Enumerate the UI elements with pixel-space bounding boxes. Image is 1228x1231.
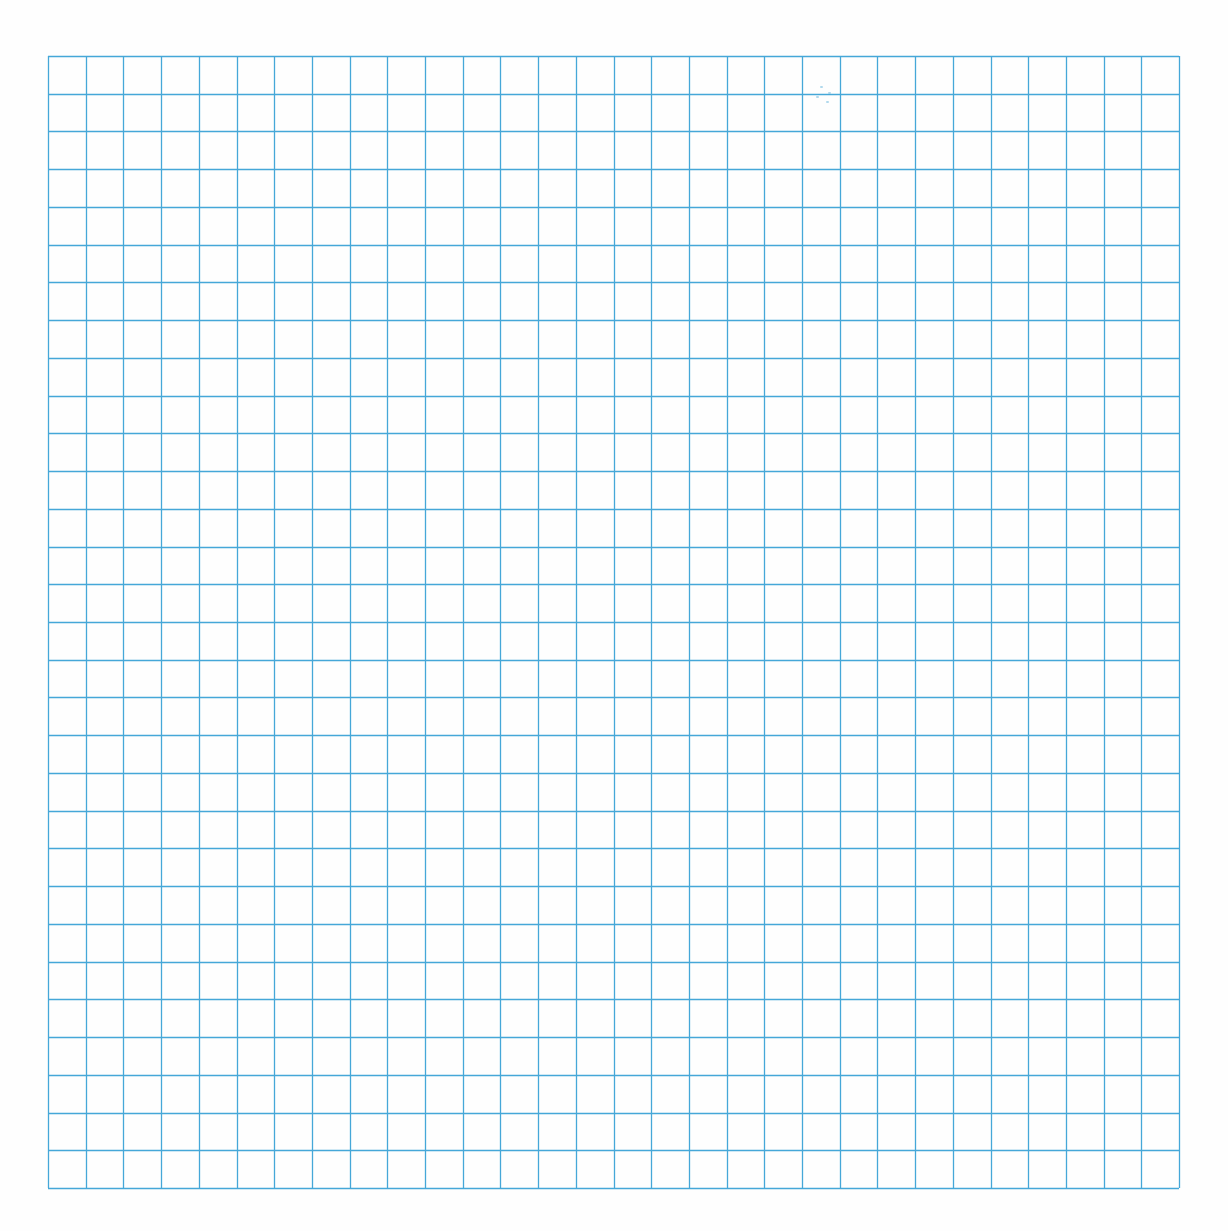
- paper-speckle: [826, 101, 829, 103]
- paper-speckle: [816, 96, 819, 98]
- grid: [48, 56, 1179, 1188]
- paper-speckle: [828, 92, 831, 94]
- grid-lines: [48, 56, 1179, 1188]
- graph-paper-sheet: [0, 0, 1228, 1231]
- paper-speckle: [820, 86, 823, 88]
